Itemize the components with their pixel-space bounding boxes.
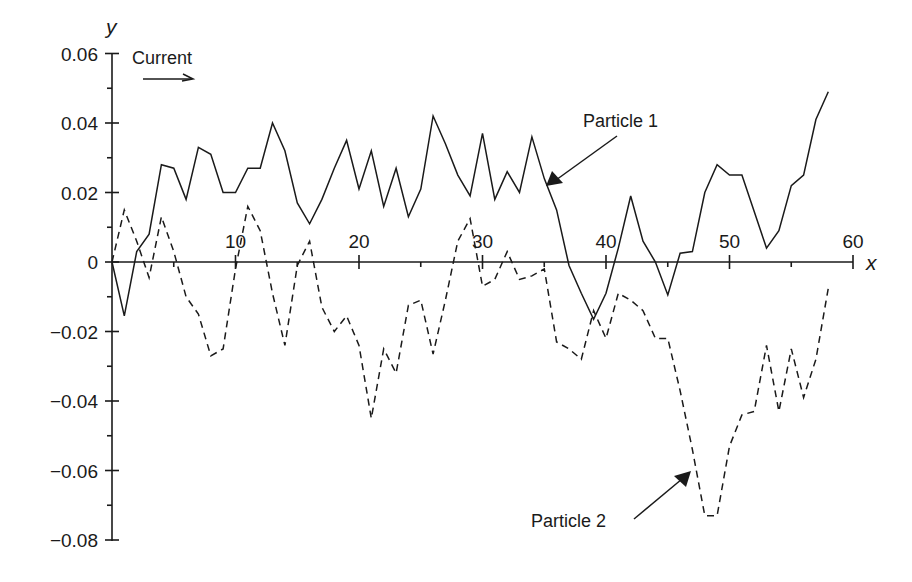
particle-2-arrow (634, 479, 682, 519)
y-tick-label: 0 (87, 252, 98, 273)
x-tick-label: 40 (595, 231, 616, 252)
particle-1-arrow (556, 136, 617, 180)
x-ticks: 102030405060 (174, 231, 864, 269)
y-tick-label: −0.06 (50, 461, 98, 482)
current-label: Current (132, 48, 192, 68)
arrowhead-icon (674, 471, 691, 487)
y-tick-label: 0.06 (61, 44, 98, 65)
y-tick-label: 0.02 (61, 183, 98, 204)
particle-2-line (112, 206, 828, 515)
y-axis-title: y (104, 15, 118, 38)
x-axis-title: x (865, 251, 878, 274)
current-annotation: Current (132, 48, 193, 81)
arrow-right-icon (143, 74, 193, 81)
y-tick-label: −0.04 (50, 391, 99, 412)
y-axis: 0.060.040.020−0.02−0.04−0.06−0.08 y (50, 15, 119, 551)
x-tick-label: 20 (348, 231, 369, 252)
x-tick-label: 50 (719, 231, 740, 252)
y-tick-label: 0.04 (61, 113, 98, 134)
particle-2-annotation: Particle 2 (531, 471, 691, 531)
particle-2-label: Particle 2 (531, 511, 606, 531)
x-tick-label: 10 (225, 231, 246, 252)
y-tick-label: −0.08 (50, 530, 98, 551)
arrowhead-icon (546, 171, 563, 186)
x-tick-label: 60 (842, 231, 863, 252)
particle-1-line (112, 92, 828, 320)
chart-canvas: 0.060.040.020−0.02−0.04−0.06−0.08 y 1020… (0, 0, 912, 582)
y-tick-label: −0.02 (50, 322, 98, 343)
particle-1-annotation: Particle 1 (546, 111, 658, 186)
particle-1-label: Particle 1 (583, 111, 658, 131)
x-tick-label: 30 (472, 231, 493, 252)
y-ticks: 0.060.040.020−0.02−0.04−0.06−0.08 (50, 44, 119, 552)
